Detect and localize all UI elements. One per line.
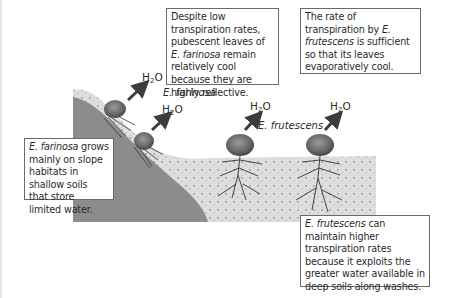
frutescens-shrub-1	[226, 134, 254, 156]
farinosa-shrub-2	[134, 132, 154, 150]
callout-farinosa-habitat: E. farinosa grows mainly on slope habita…	[24, 138, 114, 200]
h2o-label-3: H2O	[250, 100, 271, 114]
frutescens-shrub-2	[306, 134, 334, 156]
callout-frutescens-rate: The rate of transpiration by E. frutesce…	[300, 8, 421, 74]
h2o-label-2: H2O	[162, 103, 183, 117]
species-label-frutescens: E. frutescens	[258, 120, 323, 131]
farinosa-shrub-1	[104, 100, 126, 118]
h2o-label-4: H2O	[330, 100, 351, 114]
callout-farinosa-reflective: Despite low transpiration rates, pubesce…	[166, 8, 279, 85]
callout-frutescens-water: E. frutescens can maintain higher transp…	[300, 215, 430, 287]
h2o-label-1: H2O	[142, 71, 163, 85]
